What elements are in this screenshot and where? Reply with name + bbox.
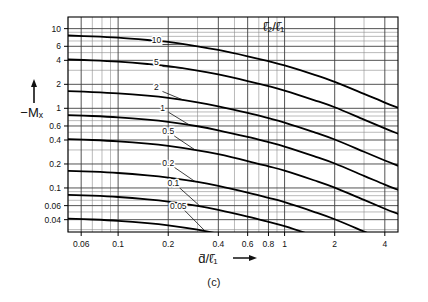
curve-label-1: 1 xyxy=(160,103,165,113)
x-tick-label: 2 xyxy=(332,239,337,249)
curve-label-0.2: 0.2 xyxy=(162,158,174,168)
x-tick-label: 0.6 xyxy=(242,239,254,249)
x-axis-title: d̄/ℓ̄₁ xyxy=(198,251,218,266)
y-tick-label: 1 xyxy=(56,103,61,113)
x-tick-label: 0.2 xyxy=(162,239,174,249)
curve-label-10: 10 xyxy=(152,35,162,45)
curve-label-0.5: 0.5 xyxy=(162,126,174,136)
y-tick-label: 0.6 xyxy=(49,121,61,131)
log-log-chart: 0.060.10.20.40.60.8124 1064210.60.40.20.… xyxy=(0,0,428,302)
figure-caption: (c) xyxy=(0,276,428,288)
y-tick-label: 4 xyxy=(56,55,61,65)
curve-label-0.05: 0.05 xyxy=(170,201,187,211)
figure-c: 0.060.10.20.40.60.8124 1064210.60.40.20.… xyxy=(0,0,428,302)
y-tick-label: 0.2 xyxy=(49,159,61,169)
x-tick-label: 0.06 xyxy=(73,239,90,249)
legend-label: ℓ̄₂/ℓ̄₁ xyxy=(263,19,285,34)
x-tick-label: 4 xyxy=(382,239,387,249)
y-tick-label: 0.1 xyxy=(49,183,61,193)
x-tick-label: 0.8 xyxy=(263,239,275,249)
y-tick-label: 2 xyxy=(56,79,61,89)
x-tick-label: 0.1 xyxy=(112,239,124,249)
y-tick-label: 10 xyxy=(52,24,62,34)
x-tick-label: 0.4 xyxy=(212,239,224,249)
y-tick-label: 0.4 xyxy=(49,135,61,145)
y-tick-label: 0.04 xyxy=(44,215,61,225)
curve-label-0.1: 0.1 xyxy=(168,178,180,188)
curve-label-5: 5 xyxy=(154,57,159,67)
curve-label-2: 2 xyxy=(154,82,159,92)
x-tick-label: 1 xyxy=(282,239,287,249)
y-tick-label: 6 xyxy=(56,41,61,51)
y-axis-title: −Mₓ xyxy=(20,105,43,120)
y-tick-label: 0.06 xyxy=(44,201,61,211)
